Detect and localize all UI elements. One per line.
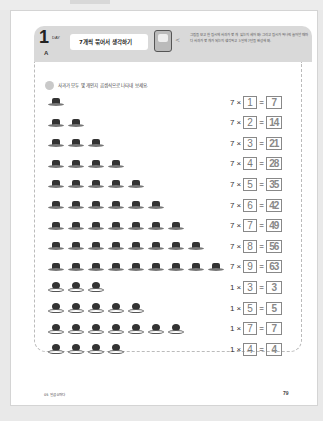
apple-plate-icon [68, 242, 84, 252]
apple-plate-icon [88, 139, 104, 149]
apple-plate-icon [128, 180, 144, 190]
picture-row [48, 322, 184, 336]
answer-box[interactable]: 21 [266, 137, 282, 150]
equals-sign: = [259, 283, 264, 292]
multiplier-box[interactable]: 5 [243, 302, 257, 315]
times-sign: × [236, 242, 241, 251]
multiplier-box[interactable]: 7 [243, 322, 257, 335]
footer-label: 05 일곱 0마다 [44, 392, 65, 397]
apple-icon [48, 344, 64, 355]
apple-plate-icon [108, 222, 124, 232]
equation: 7×8=56 [230, 239, 282, 253]
answer-box[interactable]: 49 [266, 219, 282, 232]
lesson-header: 1 DAY A 7개씩 묶어서 생각하기 < 그림을 보고 한 접시에 사과가 … [34, 26, 312, 62]
apple-plate-icon [68, 222, 84, 232]
apple-plate-icon [208, 263, 224, 273]
apple-plate-icon [88, 160, 104, 170]
answer-box[interactable]: 4 [266, 343, 282, 356]
instructions-text: 그림을 보고 한 접시에 사과가 몇 개 있는지 세어 봐! 그리고 접시가 하… [190, 32, 310, 44]
apple-plate-icon [48, 201, 64, 211]
answer-box[interactable]: 28 [266, 157, 282, 170]
apple-plate-icon [108, 242, 124, 252]
answer-box[interactable]: 63 [266, 260, 282, 273]
equals-sign: = [259, 304, 264, 313]
picture-row [48, 177, 144, 191]
apple-icon [68, 324, 84, 335]
multiplier-box[interactable]: 6 [243, 199, 257, 212]
apple-plate-icon [128, 242, 144, 252]
apple-icon [108, 303, 124, 314]
answer-box[interactable]: 42 [266, 199, 282, 212]
multiplier-box[interactable]: 3 [243, 137, 257, 150]
equals-sign: = [259, 262, 264, 271]
answer-box[interactable]: 56 [266, 240, 282, 253]
apple-plate-icon [68, 119, 84, 129]
picture-row [48, 342, 124, 356]
equals-sign: = [259, 118, 264, 127]
apple-plate-icon [48, 180, 64, 190]
page-number: 79 [283, 390, 289, 396]
answer-box[interactable]: 7 [266, 322, 282, 335]
answer-box[interactable]: 3 [266, 281, 282, 294]
multiplier-box[interactable]: 3 [243, 281, 257, 294]
multiplier-box[interactable]: 7 [243, 219, 257, 232]
apple-plate-icon [48, 263, 64, 273]
apple-plate-icon [128, 201, 144, 211]
equation: 7×2=14 [230, 116, 282, 130]
multiplier-box[interactable]: 1 [243, 96, 257, 109]
answer-box[interactable]: 14 [266, 116, 282, 129]
equation: 7×7=49 [230, 219, 282, 233]
times-sign: × [236, 345, 241, 354]
multiplicand: 7 [230, 159, 234, 168]
apple-plate-icon [68, 201, 84, 211]
times-sign: × [236, 180, 241, 189]
equation: 7×5=35 [230, 177, 282, 191]
apple-icon [108, 344, 124, 355]
picture-row [48, 239, 204, 253]
multiplier-box[interactable]: 9 [243, 260, 257, 273]
apple-plate-icon [148, 222, 164, 232]
picture-row [48, 280, 104, 294]
multiplicand: 7 [230, 201, 234, 210]
apple-plate-icon [108, 201, 124, 211]
equals-sign: = [259, 242, 264, 251]
equals-sign: = [259, 221, 264, 230]
multiplicand: 7 [230, 262, 234, 271]
apple-plate-icon [168, 263, 184, 273]
speech-lines-icon: < [175, 36, 180, 43]
picture-row [48, 95, 64, 109]
multiplier-box[interactable]: 2 [243, 116, 257, 129]
apple-plate-icon [108, 160, 124, 170]
mascot-icon [154, 30, 172, 52]
top-strip [0, 0, 323, 10]
equals-sign: = [259, 324, 264, 333]
top-mark [70, 0, 110, 4]
apple-icon [148, 324, 164, 335]
apple-icon [68, 282, 84, 293]
apple-icon [128, 324, 144, 335]
apple-plate-icon [128, 263, 144, 273]
apple-icon [68, 344, 84, 355]
picture-row [48, 260, 224, 274]
multiplicand: 1 [230, 283, 234, 292]
multiplier-box[interactable]: 4 [243, 157, 257, 170]
multiplicand: 7 [230, 221, 234, 230]
multiplier-box[interactable]: 4 [243, 343, 257, 356]
equation: 7×1=7 [230, 95, 282, 109]
multiplier-box[interactable]: 8 [243, 240, 257, 253]
picture-row [48, 136, 104, 150]
apple-icon [128, 303, 144, 314]
apple-icon [88, 344, 104, 355]
answer-box[interactable]: 35 [266, 178, 282, 191]
equation: 7×3=21 [230, 136, 282, 150]
apple-icon [48, 282, 64, 293]
apple-plate-icon [68, 263, 84, 273]
answer-box[interactable]: 5 [266, 302, 282, 315]
answer-box[interactable]: 7 [266, 96, 282, 109]
apple-icon [88, 282, 104, 293]
multiplier-box[interactable]: 5 [243, 178, 257, 191]
picture-row [48, 198, 164, 212]
apple-icon [88, 324, 104, 335]
equals-sign: = [259, 201, 264, 210]
times-sign: × [236, 139, 241, 148]
